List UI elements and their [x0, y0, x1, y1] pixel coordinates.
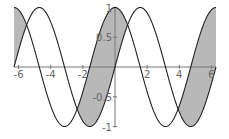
- y-tick-label: -1: [102, 122, 112, 133]
- y-tick-label: -0.5: [92, 92, 112, 103]
- x-tick-label: -2: [78, 69, 88, 80]
- x-tick-label: -6: [14, 69, 24, 80]
- x-tick-label: -4: [46, 69, 56, 80]
- y-tick-label: 0.5: [96, 32, 112, 43]
- x-tick-label: 2: [144, 69, 150, 80]
- x-tick-label: 4: [176, 69, 182, 80]
- x-tick-label: 6: [208, 69, 214, 80]
- y-tick-label: 1: [106, 3, 112, 14]
- sin-cos-chart: -6-4-224610.5-0.5-1: [0, 0, 229, 139]
